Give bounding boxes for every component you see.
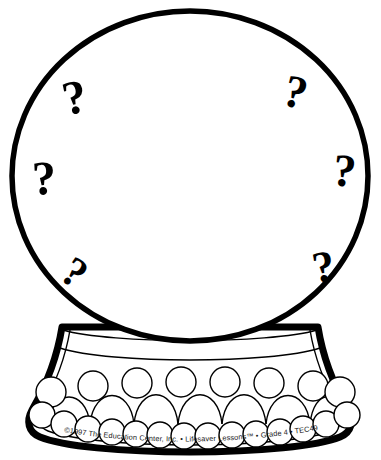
- upper-bead: [78, 371, 108, 401]
- qmark-mid-left: ?: [31, 150, 58, 204]
- crystal-ball-illustration: ? ? ? ? ? ? ©1997 The Education Center, …: [0, 0, 381, 460]
- worksheet-canvas: ? ? ? ? ? ? ©1997 The Education Center, …: [0, 0, 381, 460]
- upper-bead: [122, 368, 152, 398]
- lower-bead: [334, 402, 360, 428]
- upper-bead: [210, 367, 240, 397]
- upper-bead: [254, 368, 284, 398]
- upper-bead: [298, 371, 328, 401]
- upper-bead: [166, 367, 196, 397]
